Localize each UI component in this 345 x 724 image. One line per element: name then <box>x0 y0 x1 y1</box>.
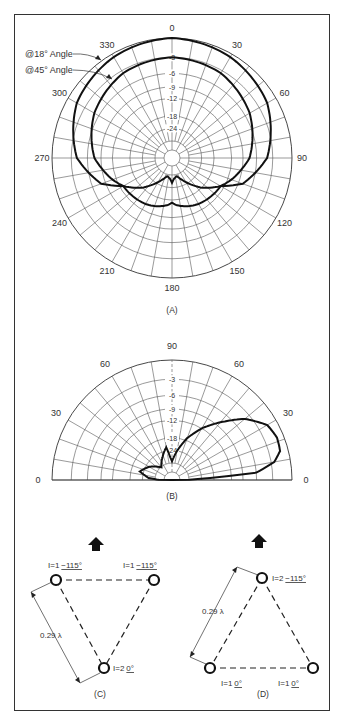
grid-spoke <box>68 162 165 218</box>
db-tick-label: -18 <box>167 113 177 120</box>
antenna-element-icon <box>205 663 215 673</box>
array-c-side-right <box>104 580 154 668</box>
legend-18deg-label: @18° Angle <box>25 49 73 59</box>
antenna-element-icon <box>99 663 109 673</box>
elevation-tick-label: 0 <box>303 475 308 485</box>
elevation-tick-label: 60 <box>234 359 244 369</box>
element-c1-label: I=1−115° <box>48 561 82 570</box>
db-tick-label: -3 <box>169 376 175 383</box>
grid-spoke <box>80 169 159 235</box>
db-tick-label: -24 <box>167 125 177 132</box>
azimuth-tick-label: 0 <box>169 23 174 33</box>
grid-spoke <box>185 169 264 235</box>
db-tick-label: -18 <box>167 435 177 442</box>
elevation-tick-label: 30 <box>283 408 293 418</box>
azimuth-tick-label: 30 <box>232 40 242 50</box>
grid-spoke <box>179 162 276 218</box>
panel-c-caption: (C) <box>94 689 106 699</box>
grid-spoke <box>95 388 161 467</box>
grid-spoke <box>183 66 249 145</box>
elevation-tick-label: 90 <box>167 341 177 351</box>
element-d2-label: I=10° <box>221 679 242 688</box>
grid-ring <box>164 472 180 480</box>
antenna-element-icon <box>257 573 267 583</box>
grid-spoke <box>112 376 168 473</box>
element-d3-label: I=10° <box>278 679 299 688</box>
db-tick-label: -12 <box>167 417 177 424</box>
db-tick-label: -12 <box>167 95 177 102</box>
azimuth-tick-label: 60 <box>280 88 290 98</box>
panel-d-array: 0.29 λ I=2−115° I=10° I=10° (D) <box>190 534 318 699</box>
grid-spoke <box>112 165 168 262</box>
element-c2-label: I=1−115° <box>123 561 157 570</box>
grid-spoke <box>185 403 264 469</box>
antenna-element-icon <box>51 575 61 585</box>
array-c-side-left <box>56 580 104 668</box>
azimuth-tick-label: 150 <box>229 266 244 276</box>
elevation-tick-label: 0 <box>35 475 40 485</box>
direction-arrow-icon <box>88 537 104 551</box>
array-d-side-right <box>262 578 313 668</box>
antenna-element-icon <box>308 663 318 673</box>
db-tick-label: -9 <box>169 84 175 91</box>
grid-spoke <box>179 98 276 154</box>
azimuth-tick-label: 330 <box>99 40 114 50</box>
db-tick-label: -6 <box>169 392 175 399</box>
grid-spoke <box>176 165 232 262</box>
grid-spoke <box>183 171 249 250</box>
azimuth-tick-label: 270 <box>34 153 49 163</box>
db-tick-label: -9 <box>169 406 175 413</box>
panel-b-elevation-chart: 030609060300-3-6-9-12-18-24 <box>35 341 308 485</box>
grid-spoke <box>80 403 159 469</box>
figure: 0306090120150180210240270300330-3-6-9-12… <box>0 0 345 724</box>
elevation-tick-label: 30 <box>51 408 61 418</box>
dimension-extension <box>237 567 258 575</box>
array-d-side-left <box>210 578 262 668</box>
azimuth-tick-label: 90 <box>297 153 307 163</box>
spacing-label-d: 0.29 λ <box>202 607 224 616</box>
dimension-extension <box>190 657 206 664</box>
antenna-element-icon <box>149 575 159 585</box>
grid-ring <box>164 150 180 166</box>
grid-spoke <box>183 388 249 467</box>
panel-a-azimuth-chart: 0306090120150180210240270300330-3-6-9-12… <box>25 23 307 293</box>
panel-c-array: 0.29 λ I=1−115° I=1−115° I=20° (C) <box>31 537 159 699</box>
spacing-label-c: 0.29 λ <box>40 631 62 640</box>
elevation-tick-label: 60 <box>100 359 110 369</box>
dimension-extension <box>31 582 52 592</box>
azimuth-tick-label: 120 <box>277 218 292 228</box>
legend-45deg-label: @45° Angle <box>25 65 73 75</box>
grid-spoke <box>179 420 276 476</box>
grid-spoke <box>95 171 161 250</box>
azimuth-tick-label: 300 <box>52 88 67 98</box>
panel-d-caption: (D) <box>257 689 269 699</box>
azimuth-tick-label: 240 <box>52 218 67 228</box>
direction-arrow-icon <box>251 534 267 548</box>
grid-spoke <box>95 66 161 145</box>
db-tick-label: -6 <box>169 70 175 77</box>
panel-b-caption: (B) <box>166 491 178 501</box>
grid-spoke <box>176 376 232 473</box>
element-d1-label: I=2−115° <box>272 574 306 583</box>
element-c3-label: I=20° <box>113 664 134 673</box>
dimension-extension <box>80 673 100 683</box>
azimuth-tick-label: 210 <box>99 266 114 276</box>
grid-spoke <box>176 54 232 151</box>
grid-spoke <box>68 98 165 154</box>
panel-a-caption: (A) <box>166 305 178 315</box>
grid-spoke <box>112 54 168 151</box>
azimuth-tick-label: 180 <box>164 283 179 293</box>
